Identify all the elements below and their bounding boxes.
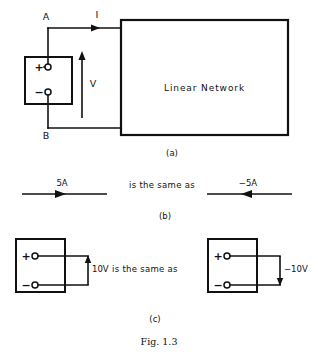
terminal-plus-dot-right-c	[224, 253, 230, 259]
panel-c: + − 10V is the same as + − −10V (c)	[16, 239, 308, 324]
linear-network-box	[121, 20, 288, 135]
panel-a: Linear Network + − A B I	[25, 9, 288, 158]
figure-caption: Fig. 1.3	[141, 336, 178, 347]
voltage-label-a: V	[90, 78, 97, 89]
panel-label-c: (c)	[149, 314, 160, 324]
source-plus-sign-a: +	[34, 61, 43, 74]
terminal-minus-dot-right-c	[224, 282, 230, 288]
source-plus-sign-left-c: +	[21, 250, 30, 263]
node-label-a: A	[43, 11, 50, 22]
source-minus-sign-left-c: −	[21, 279, 30, 292]
figure-page: Linear Network + − A B I	[0, 0, 318, 359]
voltage-label-right-c: −10V	[284, 264, 308, 274]
panel-label-b: (b)	[159, 211, 171, 221]
terminal-minus-dot-a	[45, 89, 51, 95]
current-label-left-b: 5A	[56, 178, 67, 188]
current-label-a: I	[96, 9, 99, 20]
voltage-label-left-c: 10V	[92, 264, 109, 274]
linear-network-label: Linear Network	[164, 83, 245, 93]
current-label-right-b: −5A	[239, 178, 258, 188]
current-arrowhead-right-b	[241, 190, 252, 198]
panel-label-a: (a)	[166, 148, 178, 158]
source-minus-sign-a: −	[34, 86, 43, 99]
panel-b: 5A is the same as −5A (b)	[22, 178, 292, 221]
equivalence-text-c: is the same as	[112, 264, 178, 274]
voltage-arrowhead-a	[79, 51, 86, 60]
figure-canvas: Linear Network + − A B I	[0, 0, 318, 359]
equivalence-text-b: is the same as	[129, 180, 195, 190]
current-arrowhead-a	[91, 25, 100, 32]
terminal-plus-dot-left-c	[32, 253, 38, 259]
terminal-plus-dot-a	[45, 64, 51, 70]
terminal-minus-dot-left-c	[32, 282, 38, 288]
source-plus-sign-right-c: +	[213, 250, 222, 263]
current-arrowhead-left-b	[55, 190, 66, 198]
source-minus-sign-right-c: −	[213, 279, 222, 292]
node-label-b: B	[43, 130, 50, 141]
